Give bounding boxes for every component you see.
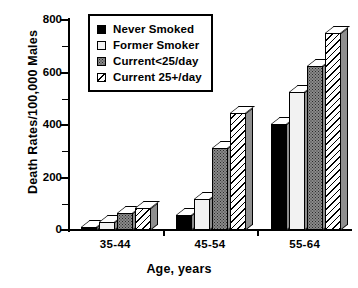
x-tick	[257, 231, 259, 236]
y-tick-label: 600	[2, 67, 62, 79]
bar-never-smoked-35-44	[81, 220, 97, 230]
bar-never-smoked-45-54	[176, 208, 192, 230]
bar-current-25plus-55-64	[325, 26, 341, 230]
bar-former-smoker-45-54	[194, 192, 210, 230]
bar-front	[289, 92, 305, 230]
legend-item: Former Smoker	[97, 37, 202, 53]
bar-chart: Death Rates/100,000 Males Age, years 020…	[0, 0, 358, 288]
bar-front	[271, 124, 287, 230]
bar-front	[176, 215, 192, 230]
x-axis-title: Age, years	[0, 262, 358, 276]
bar-former-smoker-55-64	[289, 85, 305, 230]
legend-label: Never Smoked	[113, 23, 194, 35]
legend-swatch-current-lt25	[97, 57, 106, 66]
bar-never-smoked-55-64	[271, 117, 287, 230]
bar-former-smoker-35-44	[99, 215, 115, 230]
y-tick-label: 400	[2, 119, 62, 131]
legend-swatch-never-smoked	[97, 25, 106, 34]
bar-side	[341, 28, 348, 230]
bar-front	[307, 66, 323, 230]
y-axis-title: Death Rates/100,000 Males	[26, 7, 40, 217]
legend-label: Current<25/day	[113, 55, 198, 67]
x-group-label-35-44: 35-44	[70, 238, 160, 250]
bar-side	[246, 107, 253, 230]
legend-item: Current<25/day	[97, 53, 202, 69]
bar-current-lt25-35-44	[117, 206, 133, 230]
x-group-label-45-54: 45-54	[165, 238, 255, 250]
bar-current-25plus-45-54	[230, 106, 246, 230]
y-tick-label: 0	[2, 224, 62, 236]
bar-current-lt25-45-54	[212, 141, 228, 230]
bar-front	[117, 213, 133, 230]
bar-front	[99, 222, 115, 230]
bar-front	[230, 113, 246, 230]
bar-current-lt25-55-64	[307, 59, 323, 230]
legend-item: Current 25+/day	[97, 69, 202, 85]
legend: Never Smoked Former Smoker Current<25/da…	[88, 14, 213, 92]
legend-swatch-former-smoker	[97, 41, 106, 50]
bar-current-25plus-35-44	[135, 201, 151, 230]
y-tick-label: 800	[2, 14, 62, 26]
y-tick-label: 200	[2, 172, 62, 184]
legend-label: Current 25+/day	[113, 71, 202, 83]
legend-swatch-current-25plus	[97, 73, 106, 82]
legend-item: Never Smoked	[97, 21, 202, 37]
bar-front	[194, 199, 210, 230]
bar-front	[135, 208, 151, 230]
x-group-label-55-64: 55-64	[260, 238, 350, 250]
legend-label: Former Smoker	[113, 39, 199, 51]
bar-front	[212, 148, 228, 230]
bar-front	[325, 33, 341, 230]
bar-front	[81, 227, 97, 230]
x-tick	[163, 231, 165, 236]
